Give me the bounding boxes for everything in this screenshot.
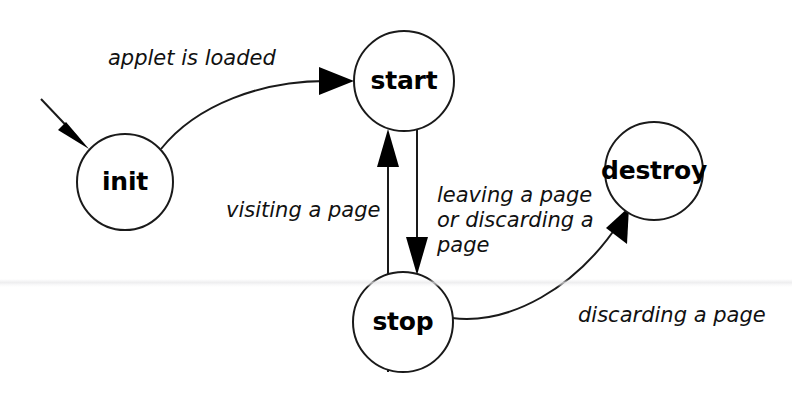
edge-start-to-stop-arrowhead: [406, 237, 428, 275]
node-init[interactable]: init: [77, 134, 173, 230]
edge-init-to-start: [161, 67, 354, 149]
node-stop[interactable]: stop: [353, 272, 453, 372]
edge-stop-to-start-arrowhead: [377, 129, 399, 167]
node-destroy-label: destroy: [601, 156, 707, 185]
state-diagram: init start stop destroy applet is loaded…: [0, 0, 792, 399]
edge-init-to-start-line: [161, 81, 330, 149]
edge-label-leaving-a-page-line3: page: [436, 233, 489, 257]
node-start[interactable]: start: [354, 31, 454, 131]
edge-entry-arrowhead: [58, 122, 89, 149]
edge-entry-to-init: [41, 99, 89, 149]
edge-label-applet-is-loaded: applet is loaded: [108, 46, 276, 70]
node-init-label: init: [102, 167, 148, 196]
edge-stop-to-destroy-arrowhead: [606, 207, 629, 244]
edge-init-to-start-arrowhead: [319, 67, 354, 95]
node-start-label: start: [371, 66, 438, 95]
edge-label-discarding-a-page: discarding a page: [578, 303, 766, 327]
edge-start-to-stop: [406, 128, 428, 275]
node-destroy[interactable]: destroy: [601, 122, 707, 220]
edge-label-visiting-a-page: visiting a page: [226, 198, 380, 222]
node-stop-label: stop: [372, 307, 433, 336]
edge-label-leaving-a-page-line1: leaving a page: [437, 183, 592, 207]
edge-label-leaving-a-page-line2: or discarding a: [437, 208, 594, 232]
diagram-canvas: init start stop destroy applet is loaded…: [0, 0, 792, 399]
